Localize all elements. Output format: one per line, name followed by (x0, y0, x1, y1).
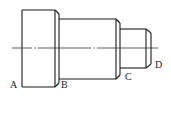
point-label-c: C (125, 72, 132, 82)
point-label-b: B (61, 80, 68, 90)
point-label-a: A (10, 80, 17, 90)
stepped-shaft-drawing: A B C D (0, 0, 171, 126)
small-shaft-section (120, 29, 151, 68)
shaft-outline (0, 0, 171, 126)
middle-shaft-section (59, 19, 120, 79)
large-collar-section (22, 10, 59, 87)
point-label-d: D (155, 60, 162, 70)
